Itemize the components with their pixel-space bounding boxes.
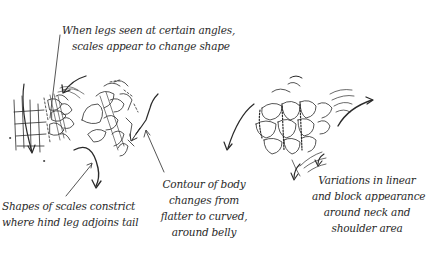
annotation-line: where hind leg adjoins tail xyxy=(2,214,134,230)
annotation-line: Contour of body xyxy=(156,176,252,192)
annotation-line: scales appear to change shape xyxy=(62,38,235,54)
annotation-line: Shapes of scales constrict xyxy=(2,198,134,214)
sketch-canvas: When legs seen at certain angles, scales… xyxy=(0,0,434,257)
annotation-line: flatter to curved, xyxy=(156,208,252,224)
annotation-hind-leg: Shapes of scales constrict where hind le… xyxy=(2,198,134,230)
annotation-line: shoulder area xyxy=(312,220,422,236)
annotation-line: When legs seen at certain angles, xyxy=(62,22,235,38)
annotation-line: around belly xyxy=(156,224,252,240)
annotation-line: Variations in linear xyxy=(312,172,422,188)
annotation-line: changes from xyxy=(156,192,252,208)
annotation-neck: Variations in linear and block appearanc… xyxy=(312,172,422,236)
belly-sketch xyxy=(66,80,164,196)
neck-shoulder-sketch xyxy=(224,76,373,180)
annotation-legs-angle: When legs seen at certain angles, scales… xyxy=(62,22,235,54)
annotation-belly: Contour of body changes from flatter to … xyxy=(156,176,252,240)
annotation-line: around neck and xyxy=(312,204,422,220)
annotation-line: and block appearance xyxy=(312,188,422,204)
